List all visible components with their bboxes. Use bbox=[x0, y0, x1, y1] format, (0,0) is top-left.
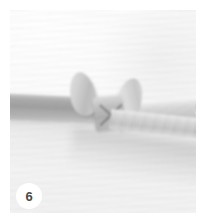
instruction-photo bbox=[10, 10, 196, 213]
step-figure: 6 bbox=[0, 0, 209, 220]
step-number-badge: 6 bbox=[16, 183, 42, 209]
step-number-label: 6 bbox=[25, 190, 32, 203]
